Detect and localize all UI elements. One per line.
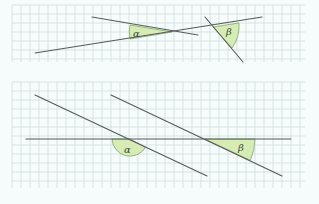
bottom-diagonal-1 [35, 95, 207, 176]
diagram-stage: α β α β [0, 0, 319, 204]
angle-beta-bottom-fill [205, 139, 255, 160]
bottom-grid [12, 82, 305, 188]
angle-alpha-bottom-label: α [124, 144, 131, 155]
bottom-diagonal-2 [111, 95, 282, 176]
angle-alpha-top-label: α [133, 28, 140, 39]
angle-beta-bottom-label: β [237, 142, 244, 153]
angle-beta-top-label: β [225, 26, 232, 37]
geometry-diagram: α β α β [0, 0, 319, 204]
